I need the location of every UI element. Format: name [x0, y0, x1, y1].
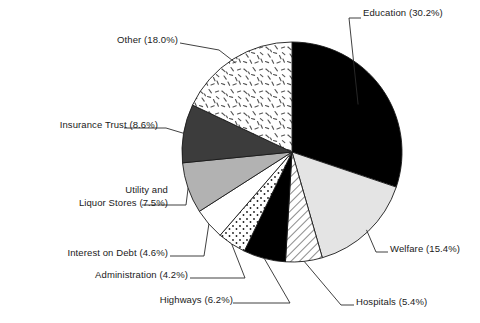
slice-label-administration-text: Administration (4.2%)	[8, 269, 188, 282]
slice-label-utility-line2: Liquor Stores (7.5%)	[8, 197, 168, 210]
slice-label-welfare: Welfare (15.4%)	[390, 243, 460, 256]
slice-label-interest-on-debt: Interest on Debt (4.6%)	[8, 247, 168, 260]
slice-label-education: Education (30.2%)	[363, 7, 443, 20]
slice-label-hospitals-text: Hospitals (5.4%)	[356, 296, 427, 309]
slice-label-other-text: Other (18.0%)	[8, 34, 178, 47]
leader-line-welfare	[367, 230, 389, 252]
leader-line-highways	[233, 259, 290, 304]
leader-line-interest-on-debt	[170, 224, 209, 256]
slice-label-insurance-trust: Insurance Trust (8.6%)	[8, 119, 158, 132]
leader-line-administration	[190, 244, 245, 278]
slice-label-administration: Administration (4.2%)	[8, 269, 188, 282]
slice-label-highways: Highways (6.2%)	[8, 294, 233, 307]
slice-label-utility-line1: Utility and	[8, 184, 168, 197]
pie-slices	[182, 42, 402, 262]
slice-label-hospitals: Hospitals (5.4%)	[356, 296, 427, 309]
pie-chart: Insurance Trust (8.6%) Utility and Liquo…	[0, 0, 480, 323]
slice-label-insurance-trust-text: Insurance Trust (8.6%)	[8, 119, 158, 132]
slice-label-utility-and-liquor-stores: Utility and Liquor Stores (7.5%)	[8, 184, 168, 209]
slice-label-highways-text: Highways (6.2%)	[8, 294, 233, 307]
leader-line-hospitals	[304, 261, 354, 305]
slice-label-other: Other (18.0%)	[8, 34, 178, 47]
slice-label-education-text: Education (30.2%)	[363, 7, 443, 20]
slice-label-welfare-text: Welfare (15.4%)	[390, 243, 460, 256]
leader-line-other	[180, 43, 236, 63]
slice-label-interest-on-debt-text: Interest on Debt (4.6%)	[8, 247, 168, 260]
